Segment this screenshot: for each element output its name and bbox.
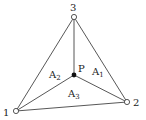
segment-1-p	[16, 75, 74, 111]
edge-3-2	[74, 17, 127, 102]
vertex-1-label: 1	[3, 107, 9, 118]
vertex-1-node	[13, 108, 18, 113]
point-p-label: P	[78, 63, 85, 74]
edge-1-2	[16, 102, 127, 111]
point-p-node	[72, 73, 77, 78]
vertex-2-node	[124, 99, 129, 104]
vertex-3-node	[71, 14, 76, 19]
triangle-diagram: 3 1 2 P A2 A1 A3	[0, 0, 146, 120]
vertex-2-label: 2	[133, 97, 139, 108]
edge-1-3	[16, 17, 74, 111]
area-a1-label: A1	[91, 66, 104, 79]
vertex-3-label: 3	[70, 2, 76, 13]
area-a2-label: A2	[48, 69, 61, 82]
area-a3-label: A3	[67, 88, 80, 101]
